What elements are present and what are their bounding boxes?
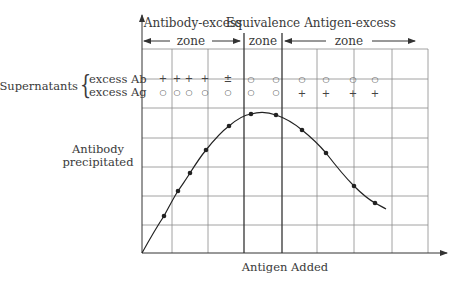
svg-text:+: +: [349, 88, 357, 99]
excess-ag-label: excess Ag: [89, 85, 147, 99]
y-axis-label-line2: precipitated: [62, 155, 134, 169]
precipitin-diagram: Antibody-excess zone Equivalence zone An…: [0, 0, 467, 285]
zone-antigen-excess-sub: zone: [335, 34, 363, 48]
svg-text:+: +: [159, 73, 167, 84]
svg-text:○: ○: [202, 88, 209, 97]
svg-text:+: +: [371, 88, 379, 99]
svg-text:○: ○: [174, 88, 181, 97]
zone-equivalence-title: Equivalence: [226, 16, 300, 30]
zone-antigen-excess-title: Antigen-excess: [303, 16, 396, 30]
svg-text:○: ○: [248, 75, 255, 84]
svg-text:○: ○: [323, 75, 330, 84]
precipitation-curve: [142, 113, 386, 253]
excess-ab-label: excess Ab: [89, 72, 147, 86]
svg-text:○: ○: [273, 75, 280, 84]
svg-text:○: ○: [273, 88, 280, 97]
svg-text:+: +: [201, 73, 209, 84]
data-points: [162, 112, 378, 219]
svg-text:+: +: [185, 73, 193, 84]
zone-antibody-excess-sub: zone: [177, 34, 205, 48]
svg-text:+: +: [322, 88, 330, 99]
zone-equivalence-sub: zone: [249, 34, 277, 48]
svg-text:○: ○: [186, 88, 193, 97]
svg-text:±: ±: [224, 73, 232, 84]
svg-text:○: ○: [248, 88, 255, 97]
y-axis-label-line1: Antibody: [71, 142, 125, 156]
svg-text:○: ○: [350, 75, 357, 84]
svg-text:○: ○: [160, 88, 167, 97]
svg-text:○: ○: [299, 75, 306, 84]
svg-text:○: ○: [225, 88, 232, 97]
supernatants-label: Supernatants: [0, 79, 78, 93]
excess-ag-markers: ○ ○ ○ ○ ○ ○ ○ + + + +: [160, 88, 380, 99]
svg-text:+: +: [298, 88, 306, 99]
excess-ab-markers: + + + + ± ○ ○ ○ ○ ○ ○: [159, 73, 379, 84]
svg-text:○: ○: [372, 75, 379, 84]
svg-text:+: +: [173, 73, 181, 84]
x-axis-label: Antigen Added: [241, 260, 329, 274]
